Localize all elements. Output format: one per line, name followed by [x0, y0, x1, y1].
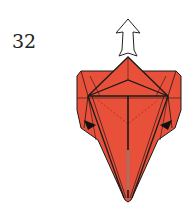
- model-body: [77, 57, 181, 202]
- push-up-arrow-icon: [116, 19, 140, 56]
- origami-diagram: [0, 0, 193, 208]
